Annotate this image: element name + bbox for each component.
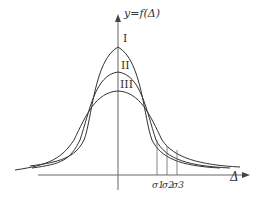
curve-II-label: II: [121, 59, 130, 72]
y-axis-label: y=f(Δ): [123, 7, 160, 20]
x-axis-arrow-icon: [242, 172, 250, 178]
normal-distribution-diagram: y=f(Δ) Δ I II III σ1 σ2 σ3: [0, 0, 262, 201]
curve-III-label: III: [120, 78, 133, 91]
sigma3-label: σ3: [172, 180, 184, 190]
curve-I-label: I: [123, 32, 127, 45]
y-axis-arrow-icon: [115, 14, 121, 22]
curve-III: [15, 91, 240, 170]
x-axis-label: Δ: [229, 170, 239, 184]
